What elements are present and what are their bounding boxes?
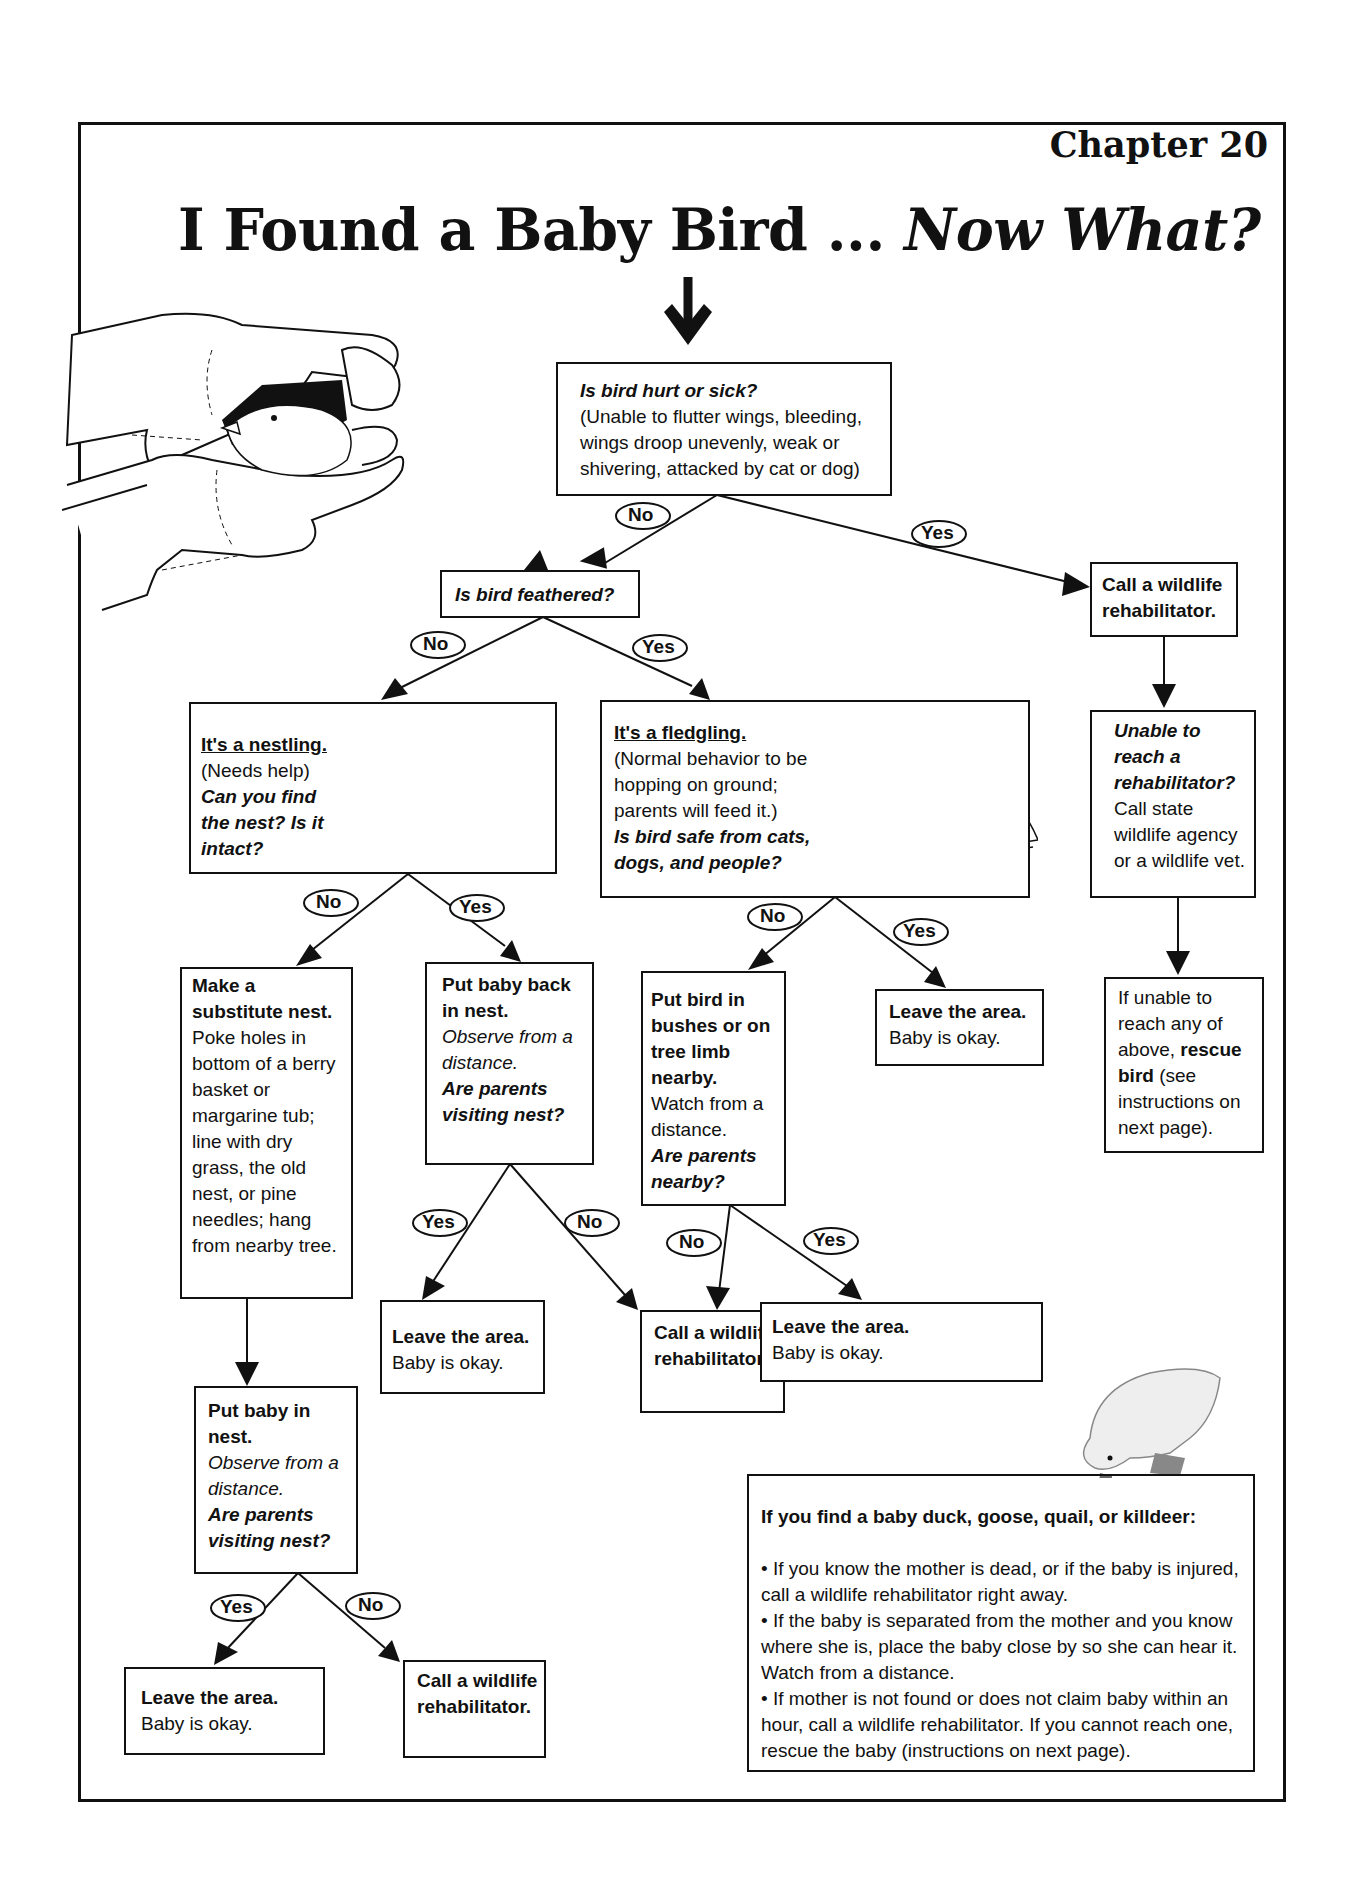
- node-leave-bottom: Leave the area. Baby is okay.: [124, 1667, 325, 1755]
- duck-box-bullet-2: • If the baby is separated from the moth…: [761, 1608, 1245, 1686]
- node-unable-to-reach: Unable to reach a rehabilitator? Call st…: [1090, 710, 1256, 898]
- duck-box-bullet-3: • If mother is not found or does not cla…: [761, 1686, 1245, 1764]
- edge-label-putinnest-yes: Yes: [220, 1596, 253, 1618]
- substitute-heading: Make a substitute nest.: [192, 973, 345, 1025]
- nestling-heading: It's a nestling.: [201, 732, 341, 758]
- gloved-hands-illustration: [62, 310, 462, 630]
- edge-label-hurt-no: No: [628, 504, 653, 526]
- hurt-question: Is bird hurt or sick?: [580, 378, 890, 404]
- node-feathered: Is bird feathered?: [440, 570, 640, 618]
- put-in-nest-observe: Observe from a distance.: [208, 1450, 350, 1502]
- nestling-detail: (Needs help): [201, 758, 341, 784]
- substitute-detail: Poke holes in bottom of a berry basket o…: [192, 1025, 345, 1259]
- feathered-question: Is bird feathered?: [455, 582, 638, 608]
- fledgling-heading: It's a fledgling.: [614, 720, 839, 746]
- edge-label-fledgling-yes: Yes: [903, 920, 936, 942]
- title-italic: Now What?: [904, 196, 1261, 263]
- leave-detail: Baby is okay.: [889, 1025, 1042, 1051]
- node-nestling: It's a nestling. (Needs help) Can you fi…: [189, 702, 557, 874]
- duck-box-bullet-1: • If you know the mother is dead, or if …: [761, 1556, 1245, 1608]
- edge-label-putback-yes: Yes: [422, 1211, 455, 1233]
- leave-heading: Leave the area.: [889, 999, 1042, 1025]
- fledgling-question: Is bird safe from cats, dogs, and people…: [614, 824, 839, 876]
- edge-label-feathered-no: No: [423, 633, 448, 655]
- page-title: I Found a Baby Bird ... Now What?: [178, 196, 1261, 263]
- node-hurt-or-sick: Is bird hurt or sick? (Unable to flutter…: [556, 362, 892, 496]
- node-call-rehab-top: Call a wildlife rehabilitator.: [1090, 562, 1238, 637]
- fledgling-detail: (Normal behavior to be hopping on ground…: [614, 746, 839, 824]
- put-in-nest-heading: Put baby in nest.: [208, 1398, 350, 1450]
- edge-label-hurt-yes: Yes: [921, 522, 954, 544]
- leave-heading: Leave the area.: [392, 1324, 543, 1350]
- duck-goose-info-box: If you find a baby duck, goose, quail, o…: [747, 1474, 1255, 1772]
- hurt-detail: (Unable to flutter wings, bleeding, wing…: [580, 404, 890, 482]
- node-put-bird-bushes: Put bird in bushes or on tree limb nearb…: [641, 971, 786, 1206]
- duckling-illustration: [1070, 1358, 1230, 1478]
- edge-label-putinnest-no: No: [358, 1594, 383, 1616]
- node-if-unable-any: If unable to reach any of above, rescue …: [1104, 977, 1264, 1153]
- node-put-back-in-nest: Put baby back in nest. Observe from a di…: [425, 962, 594, 1165]
- put-in-nest-question: Are parents visiting nest?: [208, 1502, 350, 1554]
- edge-label-fledgling-no: No: [760, 905, 785, 927]
- edge-label-bushes-yes: Yes: [813, 1229, 846, 1251]
- put-back-question: Are parents visiting nest?: [442, 1076, 586, 1128]
- leave-detail: Baby is okay.: [141, 1711, 323, 1737]
- chapter-label: Chapter 20: [1050, 124, 1268, 165]
- node-leave-fledgling-safe: Leave the area. Baby is okay.: [875, 989, 1044, 1066]
- node-leave-parents-nearby: Leave the area. Baby is okay.: [760, 1302, 1043, 1382]
- unable-detail: Call state wildlife agency or a wildlife…: [1114, 796, 1254, 874]
- title-main: I Found a Baby Bird ...: [178, 196, 904, 263]
- edge-label-bushes-no: No: [679, 1231, 704, 1253]
- edge-label-nestling-no: No: [316, 891, 341, 913]
- node-fledgling: It's a fledgling. (Normal behavior to be…: [600, 700, 1030, 898]
- bushes-question: Are parents nearby?: [651, 1143, 780, 1195]
- call-rehab-bottom-text: Call a wildlife rehabilitator.: [417, 1668, 540, 1720]
- bushes-detail: Watch from a distance.: [651, 1091, 780, 1143]
- put-back-observe: Observe from a distance.: [442, 1024, 586, 1076]
- leave-detail: Baby is okay.: [772, 1340, 1041, 1366]
- edge-label-feathered-yes: Yes: [642, 636, 675, 658]
- nestling-question: Can you find the nest? Is it intact?: [201, 784, 341, 862]
- bushes-heading: Put bird in bushes or on tree limb nearb…: [651, 987, 780, 1091]
- node-put-baby-in-nest: Put baby in nest. Observe from a distanc…: [194, 1386, 358, 1574]
- duck-box-heading: If you find a baby duck, goose, quail, o…: [761, 1504, 1245, 1530]
- call-rehab-top-text: Call a wildlife rehabilitator.: [1102, 572, 1236, 624]
- edge-label-nestling-yes: Yes: [459, 896, 492, 918]
- leave-heading: Leave the area.: [772, 1314, 1041, 1340]
- edge-label-putback-no: No: [577, 1211, 602, 1233]
- node-substitute-nest: Make a substitute nest. Poke holes in bo…: [180, 967, 353, 1299]
- node-call-rehab-bottom: Call a wildlife rehabilitator.: [403, 1660, 546, 1758]
- unable-question: Unable to reach a rehabilitator?: [1114, 718, 1254, 796]
- if-unable-text: If unable to reach any of above, rescue …: [1118, 985, 1254, 1141]
- leave-heading: Leave the area.: [141, 1685, 323, 1711]
- node-leave-put-back-yes: Leave the area. Baby is okay.: [380, 1300, 545, 1394]
- leave-detail: Baby is okay.: [392, 1350, 543, 1376]
- put-back-heading: Put baby back in nest.: [442, 972, 586, 1024]
